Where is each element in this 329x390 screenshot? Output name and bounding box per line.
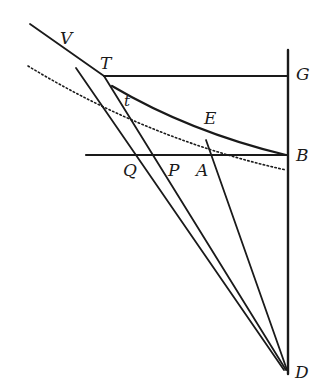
label-p: P — [168, 162, 179, 179]
label-b: B — [296, 147, 309, 164]
diagram-lines — [0, 0, 329, 390]
label-small-t: t — [124, 94, 130, 109]
line-ead — [206, 140, 287, 370]
label-q: Q — [123, 162, 137, 179]
label-e: E — [204, 110, 216, 127]
label-t: T — [100, 55, 111, 72]
label-v: V — [60, 30, 72, 47]
label-d: D — [295, 364, 309, 381]
label-a: A — [196, 162, 208, 179]
label-g: G — [296, 66, 310, 83]
line-vqd — [76, 68, 284, 370]
diagram-canvas: V T G t E B Q P A D — [0, 0, 329, 390]
curve-teb — [112, 86, 286, 155]
